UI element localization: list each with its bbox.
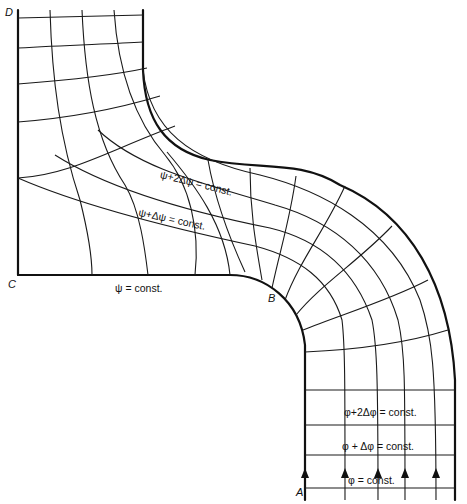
label-phi-const: φ = const. bbox=[348, 474, 395, 486]
point-label-a: A bbox=[296, 486, 303, 498]
point-label-b: B bbox=[268, 292, 275, 304]
flow-net-drawing bbox=[0, 0, 467, 504]
flow-net-figure: D C B A ψ = const. ψ+Δψ = const. ψ+2Δψ =… bbox=[0, 0, 467, 504]
label-psi-const: ψ = const. bbox=[115, 282, 162, 294]
point-label-d: D bbox=[5, 6, 13, 18]
point-label-c: C bbox=[8, 278, 16, 290]
wall-outer bbox=[143, 10, 455, 500]
label-phi-plus-2dphi: φ+2Δφ = const. bbox=[344, 406, 417, 418]
wall-inner bbox=[18, 275, 305, 500]
label-phi-plus-dphi: φ + Δφ = const. bbox=[342, 440, 414, 452]
